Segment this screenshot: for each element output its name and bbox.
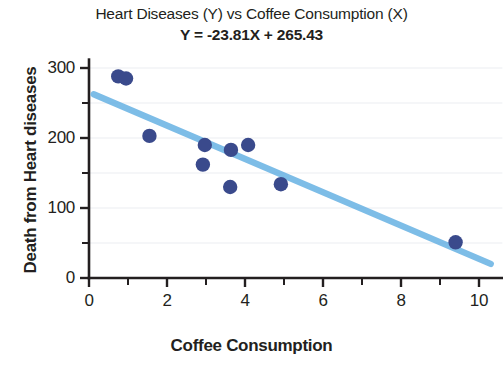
x-tick-label: 2 <box>162 291 171 311</box>
x-tick-label: 4 <box>240 291 249 311</box>
y-tick-label: 300 <box>8 58 75 78</box>
data-point <box>224 143 238 157</box>
data-point <box>448 235 462 249</box>
y-tick-label: 0 <box>8 268 75 288</box>
data-point <box>196 157 210 171</box>
x-tick-label: 6 <box>318 291 327 311</box>
data-point <box>119 71 133 85</box>
y-tick-label: 100 <box>8 198 75 218</box>
data-point <box>241 138 255 152</box>
gridlines <box>89 68 502 243</box>
x-tick-label: 0 <box>84 291 93 311</box>
data-points <box>111 69 463 249</box>
y-tick-label: 200 <box>8 128 75 148</box>
data-point <box>198 138 212 152</box>
data-point <box>142 129 156 143</box>
chart-figure: Heart Diseases (Y) vs Coffee Consumption… <box>0 0 503 365</box>
x-tick-label: 8 <box>396 291 405 311</box>
data-point <box>223 180 237 194</box>
x-tick-label: 10 <box>470 291 488 311</box>
data-point <box>274 177 288 191</box>
regression-trendline <box>94 94 491 264</box>
plot-area <box>0 0 503 365</box>
minor-tick-marks <box>82 103 440 285</box>
